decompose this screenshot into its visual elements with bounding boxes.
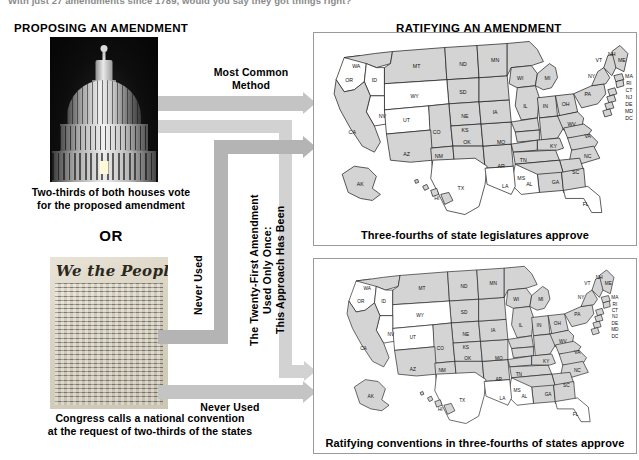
svg-text:MA: MA	[625, 73, 633, 79]
map-state-legislatures-caption: Three-fourths of state legislatures appr…	[314, 229, 636, 241]
map-ratifying-conventions-caption: Ratifying conventions in three-fourths o…	[314, 437, 636, 449]
map-ratifying-conventions: WA OR ID MT ND SD WY NE IA MN WI MI IL I…	[314, 259, 636, 429]
svg-text:NV: NV	[379, 113, 387, 119]
svg-text:AR: AR	[495, 377, 502, 382]
svg-text:CA: CA	[349, 129, 357, 135]
svg-text:MN: MN	[490, 281, 498, 286]
svg-text:MI: MI	[538, 297, 543, 302]
svg-text:NM: NM	[435, 153, 443, 159]
svg-text:DC: DC	[625, 115, 633, 121]
svg-text:OH: OH	[554, 321, 562, 326]
svg-text:LA: LA	[500, 396, 507, 401]
svg-text:NY: NY	[588, 73, 596, 79]
svg-text:AL: AL	[521, 394, 527, 399]
svg-text:IL: IL	[523, 103, 527, 109]
svg-text:OH: OH	[562, 101, 570, 107]
svg-text:OK: OK	[463, 139, 471, 145]
svg-text:WA: WA	[363, 286, 371, 291]
svg-text:TN: TN	[516, 372, 523, 377]
capitol-caption-line-1: Two-thirds of both houses vote	[0, 186, 222, 199]
svg-text:TN: TN	[520, 157, 527, 163]
intro-caption: With just 27 amendments since 1789, woul…	[8, 0, 428, 7]
arrow-twenty-first-label: The Twenty-First Amendment Used Only Onc…	[248, 180, 290, 360]
map-state-legislatures: WA OR ID MT ND SD WY NE IA MN WI MI IL I…	[314, 33, 636, 221]
svg-text:VA: VA	[584, 133, 591, 139]
svg-text:ME: ME	[605, 281, 612, 286]
svg-text:WV: WV	[559, 339, 567, 344]
svg-text:ME: ME	[618, 57, 626, 63]
svg-text:RI: RI	[612, 302, 617, 307]
svg-text:MT: MT	[419, 286, 426, 291]
constitution-preamble-photo: We the People	[50, 257, 168, 409]
svg-text:NH: NH	[596, 275, 603, 280]
svg-text:PA: PA	[574, 312, 581, 317]
svg-text:NY: NY	[578, 295, 585, 300]
arrow-never-used-convention-shaft-top	[214, 140, 304, 154]
infographic-root: With just 27 amendments since 1789, woul…	[0, 0, 639, 460]
svg-text:NJ: NJ	[626, 94, 633, 100]
svg-text:AR: AR	[498, 163, 505, 169]
arrow-most-common-label: Most Common Method	[196, 66, 306, 91]
map-ratifying-conventions-panel: WA OR ID MT ND SD WY NE IA MN WI MI IL I…	[313, 258, 637, 454]
label-line-3: The Twenty-First Amendment	[248, 194, 260, 346]
svg-text:AK: AK	[357, 181, 364, 187]
svg-text:MS: MS	[513, 388, 520, 393]
svg-text:VA: VA	[574, 350, 581, 355]
drum-colonnade	[60, 126, 148, 150]
svg-text:MN: MN	[491, 57, 499, 63]
arrow-most-common-shaft	[158, 96, 304, 111]
svg-text:IN: IN	[537, 323, 542, 328]
svg-text:GA: GA	[552, 179, 560, 185]
svg-text:HI: HI	[434, 195, 439, 201]
svg-text:WI: WI	[513, 297, 519, 302]
svg-text:CA: CA	[360, 346, 367, 351]
svg-text:NE: NE	[461, 113, 469, 119]
or-divider-label: OR	[0, 227, 222, 244]
svg-text:CT: CT	[625, 87, 633, 93]
svg-text:OR: OR	[345, 77, 353, 83]
svg-text:NH: NH	[608, 51, 616, 57]
svg-text:SC: SC	[572, 169, 579, 175]
svg-text:DE: DE	[625, 101, 633, 107]
svg-text:SD: SD	[459, 89, 466, 95]
svg-text:AL: AL	[526, 181, 532, 187]
svg-text:HI: HI	[438, 407, 443, 412]
label-line-2: Method	[196, 79, 306, 92]
constitution-caption-line-2: at the request of two-thirds of the stat…	[0, 425, 300, 438]
svg-text:MI: MI	[545, 75, 551, 81]
svg-text:NC: NC	[574, 368, 581, 373]
svg-text:VT: VT	[584, 281, 590, 286]
arrow-twenty-first-shaft-bottom	[279, 365, 305, 378]
svg-text:OK: OK	[464, 356, 472, 361]
svg-text:VT: VT	[595, 57, 602, 63]
svg-text:DE: DE	[612, 321, 619, 326]
svg-text:OR: OR	[357, 299, 365, 304]
svg-text:MO: MO	[495, 356, 503, 361]
svg-text:PA: PA	[584, 91, 591, 97]
arrow-never-used-convention-riser	[214, 140, 228, 344]
svg-text:WA: WA	[352, 63, 361, 69]
svg-text:NV: NV	[388, 332, 395, 337]
capitol-caption-line-2: for the proposed amendment	[0, 199, 222, 212]
parchment-script-lines	[55, 283, 163, 405]
svg-text:KY: KY	[550, 143, 557, 149]
svg-text:NJ: NJ	[612, 314, 618, 319]
svg-text:SC: SC	[563, 383, 570, 388]
capitol-caption: Two-thirds of both houses vote for the p…	[0, 186, 222, 212]
svg-text:GA: GA	[545, 392, 553, 397]
dome-lantern	[96, 60, 113, 82]
svg-text:WY: WY	[410, 93, 419, 99]
constitution-caption: Congress calls a national convention at …	[0, 412, 300, 438]
arrow-never-used-bottom-shaft	[158, 385, 304, 399]
arrow-twenty-first-stub	[158, 120, 292, 133]
svg-text:FL: FL	[583, 201, 589, 207]
svg-text:ID: ID	[372, 77, 377, 83]
svg-text:KS: KS	[461, 127, 468, 133]
svg-text:AZ: AZ	[410, 367, 416, 372]
svg-text:TX: TX	[458, 185, 465, 191]
svg-text:ID: ID	[381, 299, 386, 304]
svg-text:IN: IN	[543, 103, 548, 109]
svg-text:MS: MS	[517, 175, 525, 181]
svg-text:RI: RI	[626, 80, 631, 86]
svg-text:MO: MO	[497, 139, 505, 145]
